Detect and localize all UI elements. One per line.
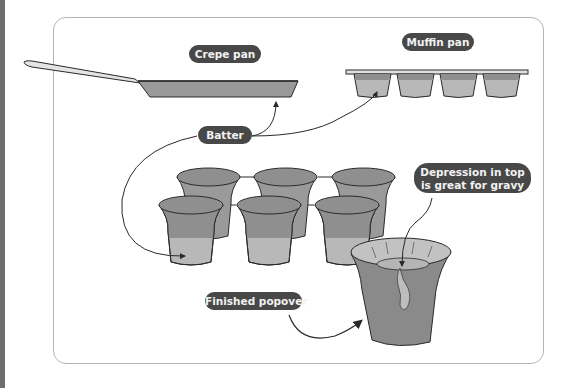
popover-diagram-art	[0, 0, 573, 388]
label-finished-popover: Finished popover	[205, 292, 302, 310]
label-depression-line1: Depression in top	[414, 166, 531, 179]
label-muffin-pan: Muffin pan	[402, 33, 474, 51]
arrow-to-finished-popover	[289, 315, 361, 338]
label-depression-line2: is great for gravy	[414, 179, 531, 192]
muffin-pan-icon	[346, 70, 528, 98]
label-batter: Batter	[198, 126, 252, 144]
label-crepe-pan: Crepe pan	[189, 45, 261, 63]
label-depression: Depression in top is great for gravy	[414, 163, 531, 193]
arrow-to-crepe-pan	[252, 102, 276, 136]
arrow-to-muffin-pan	[252, 92, 377, 136]
crepe-pan-icon	[24, 61, 298, 97]
finished-popover-icon	[351, 238, 451, 346]
